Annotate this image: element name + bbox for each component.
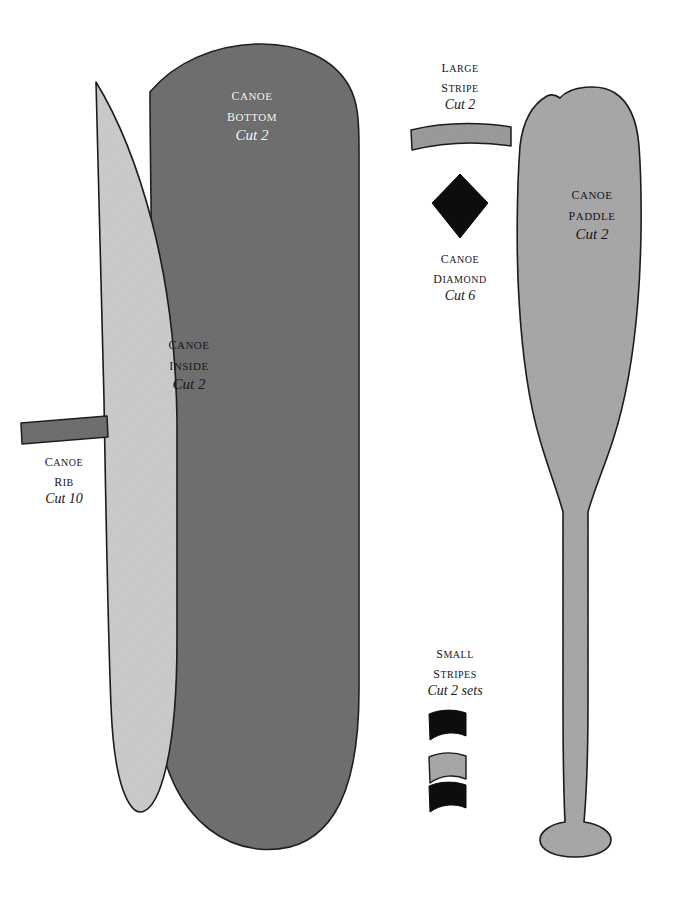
pattern-sheet: Canoe Bottom Cut 2 Canoe Inside Cut 2 Ca… xyxy=(0,0,675,902)
piece-canoe-paddle[interactable] xyxy=(517,87,641,857)
piece-small-stripe-bottom[interactable] xyxy=(429,782,466,812)
piece-small-stripe-top[interactable] xyxy=(429,710,466,740)
piece-canoe-bottom[interactable] xyxy=(150,44,359,850)
pattern-shapes xyxy=(0,0,675,902)
piece-large-stripe[interactable] xyxy=(411,124,511,150)
piece-small-stripe-middle[interactable] xyxy=(429,753,466,783)
piece-canoe-rib[interactable] xyxy=(21,416,108,444)
piece-canoe-diamond[interactable] xyxy=(432,174,488,238)
